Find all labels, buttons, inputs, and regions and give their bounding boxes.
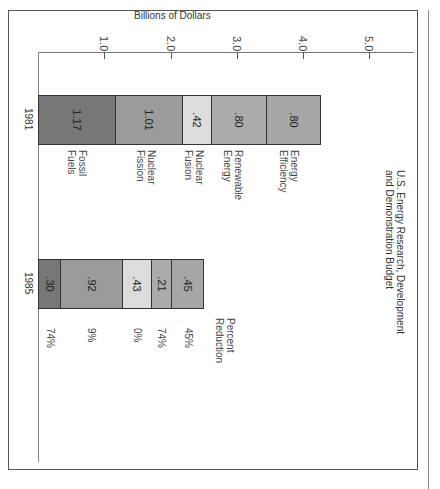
tick-label-2: 2.0 — [165, 36, 177, 51]
percent-fusion: 0% — [132, 328, 143, 342]
value-label: 1.17 — [71, 109, 83, 130]
bar-1985: .30 .92 .43 .21 .45 — [38, 259, 204, 309]
tick-label-4: 4.0 — [297, 36, 309, 51]
segment-fossil-fuels: .30 — [39, 260, 61, 308]
segment-renewable-energy: .21 — [152, 260, 172, 308]
tick-label-5: 5.0 — [363, 36, 375, 51]
tick-1 — [104, 52, 105, 59]
category-label-efficiency: Energy Efficiency — [278, 150, 300, 193]
value-label: .45 — [182, 276, 194, 291]
page-edge-line — [428, 10, 429, 489]
value-label: 1.01 — [143, 109, 155, 130]
year-label-1985: 1985 — [23, 272, 34, 294]
category-label-renewable: Renewable Energy — [222, 150, 244, 200]
chart-frame — [8, 10, 418, 470]
value-label: .42 — [191, 112, 203, 127]
category-label-fusion: Nuclear Fusion — [183, 150, 205, 184]
value-label: .30 — [44, 276, 56, 291]
percent-fission: 9% — [86, 328, 97, 342]
value-axis — [38, 52, 414, 53]
value-label: .80 — [288, 112, 300, 127]
value-label: .21 — [156, 276, 168, 291]
tick-4 — [303, 52, 304, 59]
percent-renewable: 74% — [156, 328, 167, 348]
category-label-fossil: Fossil Fuels — [66, 150, 88, 176]
value-label: .80 — [233, 112, 245, 127]
value-label: .43 — [131, 276, 143, 291]
percent-reduction-title: Percent Reduction — [214, 318, 236, 363]
x-axis-title: Billions of Dollars — [134, 10, 211, 21]
chart-title: U.S. Energy Research, Development and De… — [384, 170, 406, 334]
tick-label-1: 1.0 — [98, 36, 110, 51]
segment-renewable-energy: .80 — [212, 96, 267, 144]
segment-nuclear-fission: 1.01 — [116, 96, 183, 144]
percent-efficiency: 45% — [183, 328, 194, 348]
percent-fossil: 74% — [45, 328, 56, 348]
tick-2 — [171, 52, 172, 59]
segment-energy-efficiency: .80 — [267, 96, 320, 144]
category-label-fission: Nuclear Fission — [135, 150, 157, 184]
tick-3 — [237, 52, 238, 59]
segment-nuclear-fusion: .42 — [183, 96, 212, 144]
tick-5 — [369, 52, 370, 59]
value-label: .92 — [86, 276, 98, 291]
bar-1981: 1.17 1.01 .42 .80 .80 — [38, 95, 321, 145]
segment-energy-efficiency: .45 — [172, 260, 203, 308]
segment-nuclear-fission: .92 — [61, 260, 123, 308]
tick-label-3: 3.0 — [231, 36, 243, 51]
year-label-1981: 1981 — [23, 108, 34, 130]
segment-nuclear-fusion: .43 — [123, 260, 152, 308]
segment-fossil-fuels: 1.17 — [39, 96, 116, 144]
